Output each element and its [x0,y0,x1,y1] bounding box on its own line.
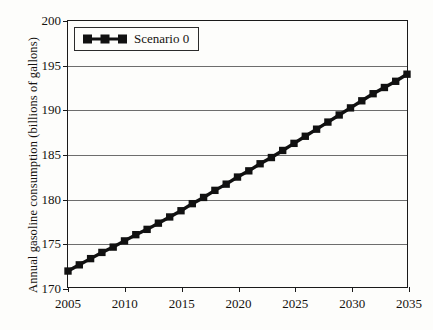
y-tick-label: 195 [42,58,62,74]
data-point-marker [234,173,241,180]
y-tick-label: 190 [42,102,62,118]
data-point-marker [189,200,196,207]
x-tick-label: 2020 [226,296,252,312]
data-point-marker [155,219,162,226]
chart-figure: Annual gasoline consumption (billions of… [0,0,433,330]
plot-area: 170175180185190195200 200520102015202020… [67,20,408,288]
data-point-marker [121,237,128,244]
x-tick-mark [182,287,183,292]
x-tick-mark [409,287,410,292]
x-tick-mark [68,287,69,292]
y-tick-label: 185 [42,147,62,163]
data-point-marker [313,126,320,133]
data-point-marker [392,78,399,85]
series-scenario-0 [68,21,407,287]
series-line [68,74,407,271]
data-point-marker [324,118,331,125]
data-point-marker [177,207,184,214]
y-tick-label: 180 [42,192,62,208]
data-point-marker [166,213,173,220]
x-tick-label: 2010 [112,296,138,312]
x-tick-mark [239,287,240,292]
x-tick-label: 2030 [339,296,365,312]
data-point-marker [279,147,286,154]
data-point-marker [76,261,83,268]
data-point-marker [256,160,263,167]
y-tick-label: 170 [42,281,62,297]
data-point-marker [347,104,354,111]
x-tick-label: 2015 [169,296,195,312]
data-point-marker [223,180,230,187]
y-tick-label: 200 [42,13,62,29]
data-point-marker [245,167,252,174]
data-point-marker [290,140,297,147]
legend: Scenario 0 [74,27,199,51]
x-tick-mark [352,287,353,292]
data-point-marker [302,133,309,140]
legend-marker-icon [82,33,128,45]
x-tick-label: 2005 [55,296,81,312]
data-point-marker [132,231,139,238]
data-point-marker [358,97,365,104]
x-tick-label: 2025 [282,296,308,312]
x-tick-mark [295,287,296,292]
data-point-marker [200,194,207,201]
data-point-marker [381,84,388,91]
x-tick-mark [125,287,126,292]
data-point-marker [403,71,410,78]
legend-label-scenario-0: Scenario 0 [134,31,189,47]
data-point-marker [369,90,376,97]
data-point-marker [64,267,71,274]
x-tick-label: 2035 [396,296,422,312]
data-point-marker [143,226,150,233]
data-point-marker [268,154,275,161]
data-point-marker [336,111,343,118]
y-tick-label: 175 [42,236,62,252]
data-point-marker [87,255,94,262]
data-point-marker [211,187,218,194]
data-point-marker [110,243,117,250]
data-point-marker [98,249,105,256]
